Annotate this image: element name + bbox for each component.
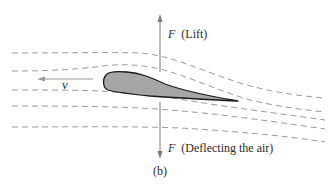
arrow-up-icon xyxy=(158,14,163,22)
airfoil-lift-diagram: v F (Lift) F (Deflecting the air) (b) xyxy=(0,0,333,190)
airfoil-wing xyxy=(104,72,238,101)
streamline-4 xyxy=(12,106,325,129)
panel-label: (b) xyxy=(153,164,167,178)
deflect-force-label: F (Deflecting the air) xyxy=(167,141,273,155)
velocity-label: v xyxy=(62,77,68,92)
arrow-left-icon xyxy=(37,77,45,82)
arrow-down-icon xyxy=(158,151,163,159)
lift-force-symbol: F xyxy=(167,27,176,41)
streamline-5 xyxy=(12,127,325,142)
lift-force-description: (Lift) xyxy=(181,27,207,41)
lift-force-label: F (Lift) xyxy=(167,27,207,41)
deflect-force-description: (Deflecting the air) xyxy=(181,141,273,155)
deflect-force-symbol: F xyxy=(167,141,176,155)
